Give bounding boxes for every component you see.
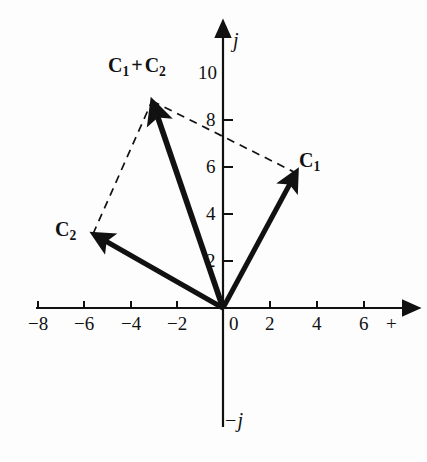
vector-label-sum-operator: +	[129, 54, 144, 76]
x-tick-label-0: 0	[229, 314, 239, 333]
y-tick-label-2: 2	[206, 251, 216, 270]
y-tick-label-8: 8	[206, 110, 216, 129]
vector-c1	[223, 180, 292, 308]
vector-label-sum-second-base: C	[145, 54, 159, 76]
y-tick-label-6: 6	[206, 157, 216, 176]
vector-label-c2: C2	[55, 219, 76, 239]
negative-y-axis-name-label: −j	[224, 410, 243, 430]
construction-line-c2-to-sum	[93, 101, 152, 234]
vector-label-sum-first-subscript: 1	[122, 64, 129, 79]
x-axis-plus-label: +	[386, 314, 397, 333]
x-tick-label--2: −2	[167, 314, 187, 333]
x-tick-label--8: −8	[28, 314, 48, 333]
y-tick-label-4: 4	[206, 204, 216, 223]
y-axis-name-label: j	[233, 30, 239, 50]
vector-addition-figure: −8 −6 −4 −2 0 2 4 6 + 10 8 6 4 2 j −j C1…	[0, 0, 427, 462]
vector-label-c2-subscript: 2	[69, 228, 76, 243]
vector-label-c1-plus-c2: C1+C2	[108, 55, 166, 75]
y-tick-label-10: 10	[198, 63, 217, 82]
x-tick-label--4: −4	[121, 314, 141, 333]
vector-label-c1-subscript: 1	[313, 159, 320, 174]
vector-label-sum-second-subscript: 2	[159, 64, 166, 79]
x-tick-label--6: −6	[74, 314, 94, 333]
vector-label-c2-base: C	[55, 218, 69, 240]
x-tick-label-2: 2	[265, 314, 275, 333]
vector-label-c1-base: C	[299, 149, 313, 171]
x-tick-label-6: 6	[359, 314, 369, 333]
x-tick-label-4: 4	[312, 314, 322, 333]
vector-label-sum-first-base: C	[108, 54, 122, 76]
vector-label-c1: C1	[299, 150, 320, 170]
